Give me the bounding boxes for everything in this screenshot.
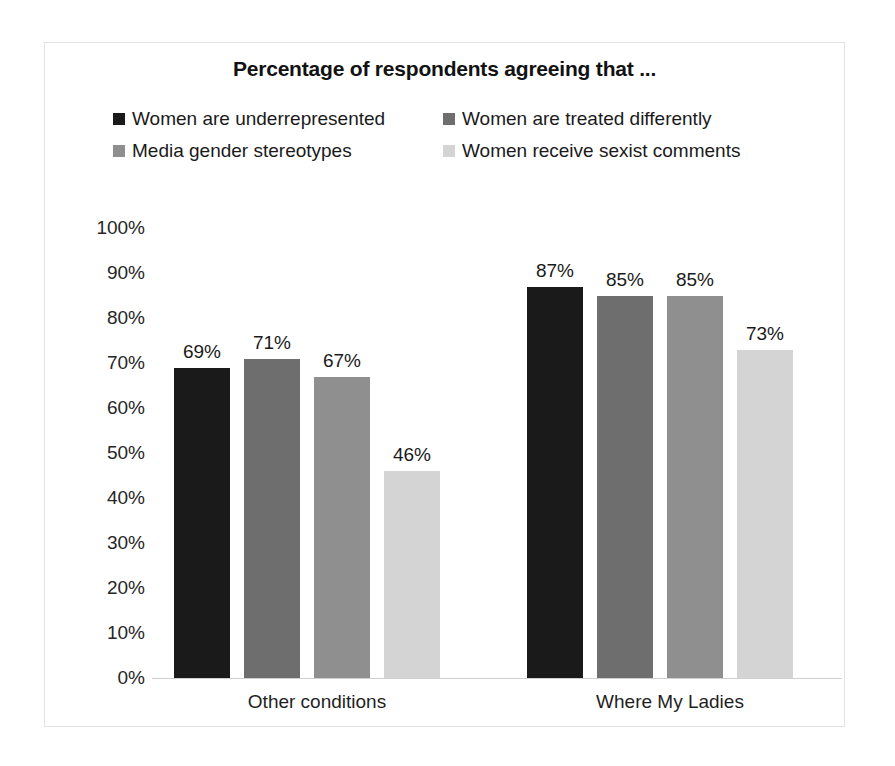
legend-label: Media gender stereotypes <box>132 140 352 162</box>
chart-title: Percentage of respondents agreeing that … <box>45 57 844 81</box>
y-axis-tick-label: 30% <box>107 532 145 554</box>
y-axis-tick-label: 90% <box>107 262 145 284</box>
y-axis-tick-label: 100% <box>96 217 145 239</box>
bar[interactable] <box>244 359 300 679</box>
legend-swatch-icon <box>113 113 125 125</box>
bar-value-label: 87% <box>536 260 574 282</box>
category-label-1: Where My Ladies <box>596 691 744 713</box>
bar-slot: 67% <box>314 228 370 678</box>
legend-item-2[interactable]: Media gender stereotypes <box>113 140 443 162</box>
y-axis-tick-label: 10% <box>107 622 145 644</box>
y-axis-tick-label: 80% <box>107 307 145 329</box>
bar[interactable] <box>597 296 653 679</box>
y-axis: 100%90%80%70%60%50%40%30%20%10%0% <box>89 228 145 678</box>
legend-swatch-icon <box>113 145 125 157</box>
bar-slot: 73% <box>737 228 793 678</box>
legend-label: Women are treated differently <box>462 108 712 130</box>
bar-value-label: 85% <box>606 269 644 291</box>
x-axis-category-labels: Other conditions Where My Ladies <box>152 691 842 725</box>
chart-frame: Percentage of respondents agreeing that … <box>44 42 845 727</box>
bar-value-label: 46% <box>393 444 431 466</box>
bar[interactable] <box>737 350 793 679</box>
bar[interactable] <box>667 296 723 679</box>
legend-item-0[interactable]: Women are underrepresented <box>113 108 443 130</box>
bar[interactable] <box>527 287 583 679</box>
legend-item-1[interactable]: Women are treated differently <box>443 108 773 130</box>
bar-slot: 71% <box>244 228 300 678</box>
bar-value-label: 67% <box>323 350 361 372</box>
bar-slot: 85% <box>597 228 653 678</box>
bar-slot: 87% <box>527 228 583 678</box>
y-axis-tick-label: 60% <box>107 397 145 419</box>
legend-label: Women are underrepresented <box>132 108 385 130</box>
category-label-0: Other conditions <box>248 691 386 713</box>
bar[interactable] <box>384 471 440 678</box>
chart-legend: Women are underrepresented Women are tre… <box>113 103 813 167</box>
y-axis-tick-label: 50% <box>107 442 145 464</box>
x-axis-line <box>152 678 842 679</box>
bar[interactable] <box>174 368 230 679</box>
bar-slot: 85% <box>667 228 723 678</box>
bar[interactable] <box>314 377 370 679</box>
bar-value-label: 85% <box>676 269 714 291</box>
bar-group-other-conditions: 69% 71% 67% 46% <box>174 228 459 678</box>
bar-slot: 69% <box>174 228 230 678</box>
y-axis-tick-label: 20% <box>107 577 145 599</box>
y-axis-tick-label: 70% <box>107 352 145 374</box>
y-axis-tick-label: 0% <box>118 667 145 689</box>
legend-swatch-icon <box>443 145 455 157</box>
bar-slot: 46% <box>384 228 440 678</box>
bar-value-label: 71% <box>253 332 291 354</box>
bar-value-label: 73% <box>746 323 784 345</box>
plot-area: 69% 71% 67% 46% 87% 85% <box>152 228 842 678</box>
legend-label: Women receive sexist comments <box>462 140 740 162</box>
bar-value-label: 69% <box>183 341 221 363</box>
legend-item-3[interactable]: Women receive sexist comments <box>443 140 773 162</box>
bar-group-where-my-ladies: 87% 85% 85% 73% <box>527 228 812 678</box>
y-axis-tick-label: 40% <box>107 487 145 509</box>
legend-swatch-icon <box>443 113 455 125</box>
